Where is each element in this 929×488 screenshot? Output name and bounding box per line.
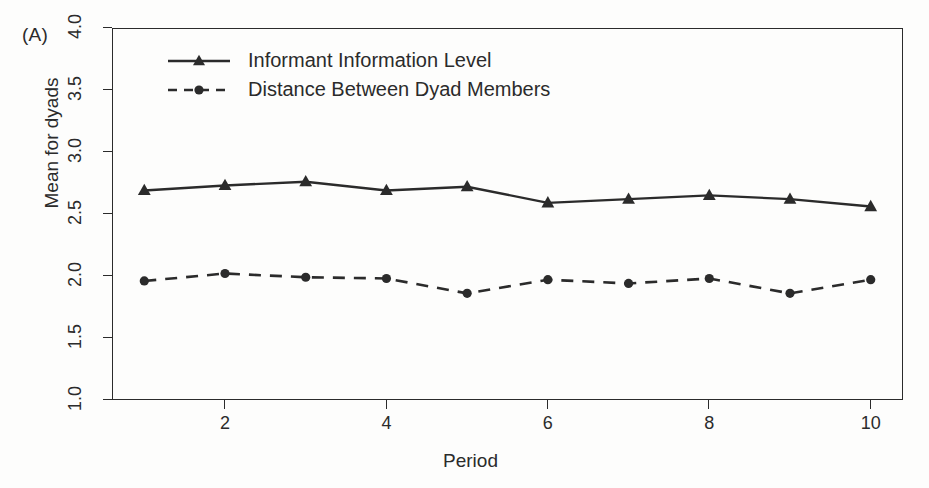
data-point-marker-circle <box>194 85 203 94</box>
y-tick-label: 2.0 <box>65 252 86 298</box>
x-tick-label: 10 <box>849 413 893 434</box>
legend-line-sample <box>166 77 232 103</box>
series-1 <box>138 175 877 211</box>
y-tick-label: 1.0 <box>65 376 86 422</box>
data-point-marker-circle <box>140 276 149 285</box>
y-tick-mark <box>103 337 112 338</box>
series-line <box>144 274 870 294</box>
data-point-marker-circle <box>543 275 552 284</box>
y-tick-label: 1.5 <box>65 314 86 360</box>
y-tick-label: 2.5 <box>65 190 86 236</box>
x-tick-label: 8 <box>687 413 731 434</box>
legend-label: Informant Information Level <box>248 49 491 72</box>
y-tick-mark <box>103 89 112 90</box>
x-tick-mark <box>870 400 871 409</box>
data-point-marker-triangle <box>461 180 474 191</box>
x-axis-title: Period <box>0 450 929 472</box>
x-tick-mark <box>708 400 709 409</box>
legend-label: Distance Between Dyad Members <box>248 78 550 101</box>
panel-label: (A) <box>22 24 48 46</box>
y-axis-title: Mean for dyads <box>41 53 63 233</box>
data-point-marker-circle <box>624 279 633 288</box>
x-tick-mark <box>547 400 548 409</box>
series-2 <box>140 269 876 298</box>
x-tick-mark <box>224 400 225 409</box>
data-point-marker-circle <box>220 269 229 278</box>
chart-figure: (A) Mean for dyads 1.01.52.02.53.03.54.0… <box>0 0 929 488</box>
data-point-marker-circle <box>463 289 472 298</box>
series-line <box>144 182 870 207</box>
y-tick-mark <box>103 27 112 28</box>
data-point-marker-triangle <box>299 175 312 186</box>
x-tick-mark <box>386 400 387 409</box>
x-tick-label: 2 <box>203 413 247 434</box>
y-tick-label: 4.0 <box>65 4 86 50</box>
y-tick-label: 3.5 <box>65 66 86 112</box>
data-point-marker-circle <box>705 274 714 283</box>
data-point-marker-circle <box>382 274 391 283</box>
data-point-marker-circle <box>785 289 794 298</box>
y-tick-mark <box>103 399 112 400</box>
data-point-marker-triangle <box>703 189 716 200</box>
x-tick-label: 6 <box>526 413 570 434</box>
y-tick-mark <box>103 213 112 214</box>
data-point-marker-circle <box>866 275 875 284</box>
y-tick-mark <box>103 275 112 276</box>
x-tick-label: 4 <box>364 413 408 434</box>
data-point-marker-circle <box>301 273 310 282</box>
y-tick-mark <box>103 151 112 152</box>
legend-line-sample <box>166 48 232 74</box>
y-tick-label: 3.0 <box>65 128 86 174</box>
